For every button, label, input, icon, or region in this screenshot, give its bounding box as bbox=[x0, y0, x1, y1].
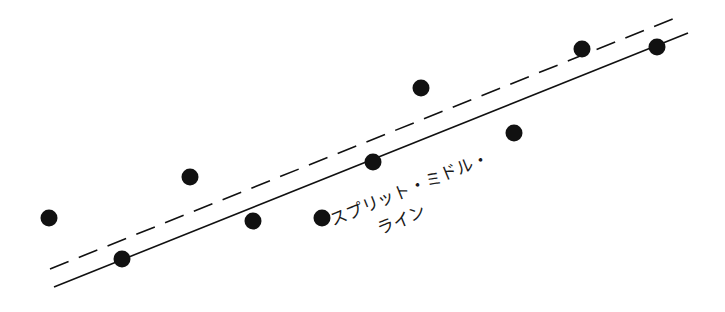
diagram-canvas: スプリット・ミドル・ ライン bbox=[0, 0, 725, 312]
data-point bbox=[245, 213, 262, 230]
split-middle-line-diagram: スプリット・ミドル・ ライン bbox=[0, 0, 725, 312]
data-point bbox=[506, 125, 523, 142]
data-point bbox=[649, 39, 666, 56]
data-point bbox=[365, 154, 382, 171]
line-label: スプリット・ミドル・ ライン bbox=[327, 147, 502, 253]
data-point bbox=[182, 169, 199, 186]
data-point bbox=[41, 210, 58, 227]
data-point bbox=[114, 251, 131, 268]
data-point bbox=[574, 41, 591, 58]
data-point bbox=[413, 80, 430, 97]
data-points bbox=[41, 39, 666, 268]
